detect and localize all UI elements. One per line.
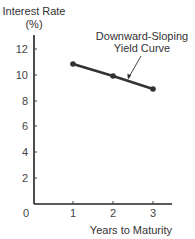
y-tick-label: 6 — [22, 120, 28, 132]
y-tick-label: 4 — [22, 146, 28, 158]
yield-curve-series — [70, 61, 156, 92]
y-axis-label: Interest Rate — [3, 5, 66, 17]
y-tick-label: 10 — [16, 69, 28, 81]
y-tick-label: 8 — [22, 95, 28, 107]
x-tick-label: 3 — [150, 207, 156, 219]
annotation-arrow-icon — [127, 56, 141, 80]
x-tick-label: 1 — [70, 207, 76, 219]
x-tick-label: 0 — [23, 207, 29, 219]
y-axis-unit: (%) — [25, 18, 42, 30]
data-point — [150, 86, 156, 92]
annotation-line2: Yield Curve — [114, 42, 170, 54]
x-axis-label: Years to Maturity — [90, 224, 173, 236]
data-point — [110, 73, 116, 79]
annotation-line1: Downward-Sloping — [96, 30, 188, 42]
y-tick-label: 12 — [16, 43, 28, 55]
y-tick-label: 2 — [22, 172, 28, 184]
yield-curve-chart: Interest Rate (%) 2 4 6 8 10 12 0 1 2 3 … — [0, 0, 195, 239]
data-point — [70, 61, 76, 67]
x-tick-label: 2 — [110, 207, 116, 219]
